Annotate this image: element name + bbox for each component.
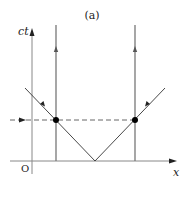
dashed-line-arrow-icon <box>19 118 26 123</box>
worldline-arrow-icon <box>133 46 137 52</box>
worldline-arrow-icon <box>54 46 58 52</box>
ct-axis-label: ct <box>18 25 29 38</box>
x-axis-label: x <box>173 166 180 179</box>
origin-label: O <box>21 163 29 174</box>
simultaneity-line <box>10 118 135 123</box>
left-event-dot <box>53 117 59 123</box>
ct-axis <box>30 28 35 174</box>
x-axis-arrow-icon <box>169 159 177 164</box>
left-worldline <box>54 25 58 161</box>
spacetime-diagram: (a) ct x O <box>0 0 186 198</box>
ct-axis-arrow-icon <box>30 28 35 36</box>
light-rays <box>25 88 165 161</box>
right-worldline <box>133 25 137 161</box>
right-event-dot <box>132 117 138 123</box>
panel-label: (a) <box>84 9 99 22</box>
